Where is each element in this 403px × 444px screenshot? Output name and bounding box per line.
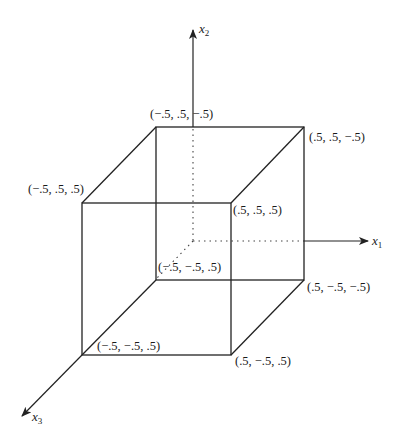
cube-diagram: x2 x1 x3 (−.5, .5, −.5) (.5, .5, −.5) (−… bbox=[0, 0, 403, 444]
vertex-label-back-bottom-left: (−.5, −.5, .5) bbox=[158, 260, 221, 274]
edge-top-left bbox=[82, 127, 156, 203]
vertex-label-front-top-left: (−.5, .5, .5) bbox=[28, 182, 84, 196]
vertex-label-front-bottom-left: (−.5, −.5, .5) bbox=[97, 339, 160, 353]
edge-top-right bbox=[231, 127, 304, 203]
x3-axis-label: x3 bbox=[31, 409, 43, 426]
vertex-label-front-top-right: (.5, .5, .5) bbox=[233, 203, 282, 217]
axes bbox=[22, 30, 368, 416]
x2-axis-label: x2 bbox=[198, 21, 209, 38]
x1-axis-label: x1 bbox=[371, 233, 382, 250]
vertex-label-back-bottom-right: (.5, −.5, −.5) bbox=[307, 280, 370, 294]
vertex-label-front-bottom-right: (.5, −.5, .5) bbox=[235, 354, 291, 368]
edge-bottom-right bbox=[231, 280, 304, 355]
vertex-label-back-top-right: (.5, .5, −.5) bbox=[309, 130, 365, 144]
x3-axis bbox=[22, 355, 82, 416]
vertex-label-back-top-left: (−.5, .5, −.5) bbox=[150, 107, 213, 121]
